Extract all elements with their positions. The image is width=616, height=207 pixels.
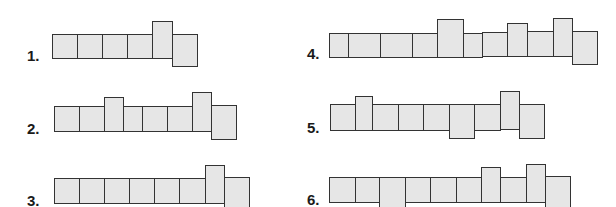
net-square (379, 177, 406, 207)
net-square (355, 177, 380, 203)
net-square (481, 167, 501, 203)
net-square (430, 177, 457, 203)
net-square (329, 177, 356, 203)
net-square (500, 177, 527, 203)
figure-6: 6. (0, 0, 616, 207)
net-square (526, 164, 546, 203)
net-square (456, 177, 482, 203)
net-square (405, 177, 431, 203)
net-square (545, 176, 571, 207)
figure-number-label: 6. (307, 192, 320, 207)
